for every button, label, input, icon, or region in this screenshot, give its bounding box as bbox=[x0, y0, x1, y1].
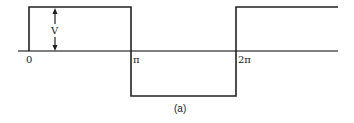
x-label-0: 0 bbox=[26, 54, 32, 65]
figure-caption: (a) bbox=[174, 103, 186, 114]
x-label-2pi: 2π bbox=[238, 54, 251, 65]
square-wave-diagram: V 0 π 2π (a) bbox=[0, 0, 354, 123]
amplitude-label: V bbox=[50, 25, 59, 36]
x-label-pi: π bbox=[133, 54, 140, 65]
